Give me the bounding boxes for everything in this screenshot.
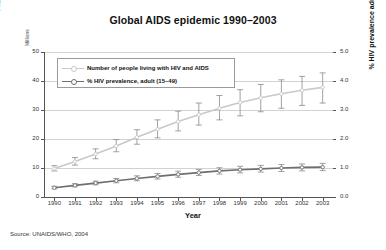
data-point <box>156 175 159 178</box>
x-tick-mark <box>178 198 179 201</box>
x-tick-mark <box>302 198 303 201</box>
x-tick-mark <box>199 198 200 201</box>
data-point <box>176 120 179 123</box>
right-tick-mark <box>333 52 336 53</box>
data-point <box>135 136 138 139</box>
source-note: Source: UNAIDS/WHO, 2004 <box>10 231 88 237</box>
data-point <box>300 166 303 169</box>
x-tick-mark <box>261 198 262 201</box>
data-point <box>197 113 200 116</box>
left-tick-label: 0 <box>17 193 39 199</box>
x-tick-mark <box>137 198 138 201</box>
data-point <box>197 171 200 174</box>
data-point <box>280 166 283 169</box>
right-tick-mark <box>333 139 336 140</box>
data-point <box>280 92 283 95</box>
right-tick-mark <box>333 168 336 169</box>
data-point <box>238 101 241 104</box>
data-point <box>115 144 118 147</box>
x-tick-mark <box>240 198 241 201</box>
right-tick-label: 5.0 <box>340 48 362 54</box>
data-point <box>53 167 56 170</box>
data-point <box>53 186 56 189</box>
data-point <box>156 127 159 130</box>
right-tick-label: 1.0 <box>340 164 362 170</box>
legend-label-0: Number of people living with HIV and AID… <box>87 65 209 71</box>
right-axis-title: % HIV prevalence adult (15–49) <box>368 0 375 78</box>
left-tick-label: 50 <box>17 48 39 54</box>
right-tick-mark <box>333 110 336 111</box>
x-tick-mark <box>323 198 324 201</box>
left-axis-units-label: Millions <box>24 29 30 46</box>
x-tick-mark <box>116 198 117 201</box>
left-axis-title: Number of people living with HIV and AID… <box>0 0 2 72</box>
legend-swatch-icon-0 <box>62 64 84 72</box>
left-tick-mark <box>41 197 44 198</box>
data-point <box>73 160 76 163</box>
right-tick-label: 2.0 <box>340 135 362 141</box>
x-tick-mark <box>54 198 55 201</box>
right-tick-label: 3.0 <box>340 106 362 112</box>
left-tick-label: 10 <box>17 164 39 170</box>
data-point <box>176 173 179 176</box>
left-tick-label: 40 <box>17 77 39 83</box>
x-tick-mark <box>96 198 97 201</box>
legend-swatch-icon-1 <box>62 77 84 85</box>
right-tick-mark <box>333 81 336 82</box>
chart-figure: Global AIDS epidemic 1990–2003 Millions … <box>0 0 386 250</box>
data-point <box>300 89 303 92</box>
x-tick-mark <box>75 198 76 201</box>
right-tick-mark <box>333 197 336 198</box>
data-point <box>94 152 97 155</box>
x-axis-title: Year <box>0 211 386 220</box>
x-tick-mark <box>219 198 220 201</box>
chart-legend: Number of people living with HIV and AID… <box>57 58 235 88</box>
legend-item-0: Number of people living with HIV and AID… <box>62 62 209 74</box>
data-point <box>115 179 118 182</box>
data-point <box>135 177 138 180</box>
legend-label-1: % HIV prevalence, adult (15–49) <box>87 78 177 84</box>
left-tick-label: 30 <box>17 106 39 112</box>
right-tick-label: 0.0 <box>340 193 362 199</box>
x-tick-mark <box>281 198 282 201</box>
data-point <box>73 184 76 187</box>
right-tick-label: 4.0 <box>340 77 362 83</box>
data-point <box>321 165 324 168</box>
data-point <box>94 181 97 184</box>
data-point <box>259 167 262 170</box>
legend-item-1: % HIV prevalence, adult (15–49) <box>62 75 177 87</box>
data-point <box>321 86 324 89</box>
data-point <box>238 168 241 171</box>
series-line <box>54 87 322 168</box>
x-tick-mark <box>158 198 159 201</box>
left-tick-label: 20 <box>17 135 39 141</box>
data-point <box>218 169 221 172</box>
series-1 <box>51 163 325 189</box>
data-point <box>259 96 262 99</box>
chart-title: Global AIDS epidemic 1990–2003 <box>0 14 386 26</box>
data-point <box>218 107 221 110</box>
